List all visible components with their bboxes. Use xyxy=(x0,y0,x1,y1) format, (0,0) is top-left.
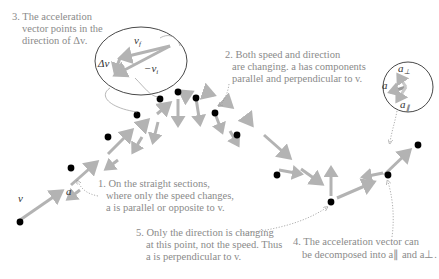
note-3: 3. The acceleration vector points in the… xyxy=(12,11,103,46)
svg-text:5. Only the direction is chang: 5. Only the direction is changing xyxy=(136,227,274,238)
a-perp-label: a⊥ xyxy=(398,62,410,76)
delta-v-label: Δv xyxy=(97,57,109,69)
note-2: 2. Both speed and direction are changing… xyxy=(225,49,366,84)
svg-text:parallel and perpendicular to: parallel and perpendicular to v. xyxy=(232,73,362,84)
svg-text:3. The acceleration: 3. The acceleration xyxy=(12,11,93,22)
a-label: a xyxy=(66,185,72,197)
svg-text:be decomposed into a∥ and a⊥.: be decomposed into a∥ and a⊥. xyxy=(302,249,437,261)
a-inset-label: a xyxy=(382,79,388,91)
svg-text:2. Both speed and direction: 2. Both speed and direction xyxy=(225,49,341,60)
vf-label: vf xyxy=(134,34,142,48)
v-label: v xyxy=(18,192,23,204)
svg-text:at this point, not the speed.: at this point, not the speed. Thus xyxy=(146,239,282,250)
diagram-canvas: vf −vi Δv a⊥ a a∥ v a 3. The acceleratio… xyxy=(0,0,439,279)
svg-text:a is perpendicular to v.: a is perpendicular to v. xyxy=(146,251,241,262)
a-par-label: a∥ xyxy=(400,98,410,112)
note-4: 4. The acceleration vector can be decomp… xyxy=(293,236,437,261)
motion-diagram: vf −vi Δv a⊥ a a∥ v a 3. The acceleratio… xyxy=(0,0,439,279)
svg-text:4. The acceleration vector can: 4. The acceleration vector can xyxy=(293,236,420,247)
delta-v-inset: vf −vi Δv xyxy=(95,27,187,112)
svg-text:are changing. a has components: are changing. a has components xyxy=(232,61,366,72)
neg-vi-label: −vi xyxy=(144,62,158,76)
svg-text:where only the speed changes,: where only the speed changes, xyxy=(106,190,234,201)
components-inset: a⊥ a a∥ xyxy=(382,62,433,112)
svg-text:a is parallel or opposite to v: a is parallel or opposite to v. xyxy=(106,202,225,213)
leader-lines xyxy=(78,84,397,237)
note-5: 5. Only the direction is changing at thi… xyxy=(136,227,282,262)
note-1: 1. On the straight sections, where only … xyxy=(98,178,234,213)
svg-text:direction of Δv.: direction of Δv. xyxy=(22,35,87,46)
svg-text:vector points in the: vector points in the xyxy=(22,23,103,34)
svg-text:1. On the straight sections,: 1. On the straight sections, xyxy=(98,178,210,189)
